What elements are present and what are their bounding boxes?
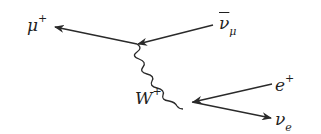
nu-e-line [192, 102, 271, 118]
mu-plus-charge: + [38, 12, 47, 25]
w-plus-label: W+ [135, 88, 162, 107]
mu-plus-line [55, 27, 137, 44]
anti-nu-flavor: μ [229, 25, 236, 38]
e-plus-line [193, 84, 272, 102]
e-charge: + [285, 72, 294, 85]
nu-e-flavor: e [285, 121, 292, 134]
nu-e-label: νe [275, 111, 292, 131]
w-symbol: W [135, 88, 152, 108]
nu-e-symbol: ν [275, 109, 285, 129]
mu-plus-symbol: μ [27, 15, 38, 35]
anti-nu-symbol: ν [219, 13, 229, 33]
mu-plus-label: μ+ [27, 15, 47, 34]
e-symbol: e [275, 75, 285, 95]
feynman-diagram [0, 0, 321, 134]
anti-nu-mu-line [138, 25, 213, 44]
anti-nu-mu-label: νμ [219, 15, 237, 35]
w-charge: + [152, 85, 161, 98]
e-plus-label: e+ [275, 75, 294, 94]
